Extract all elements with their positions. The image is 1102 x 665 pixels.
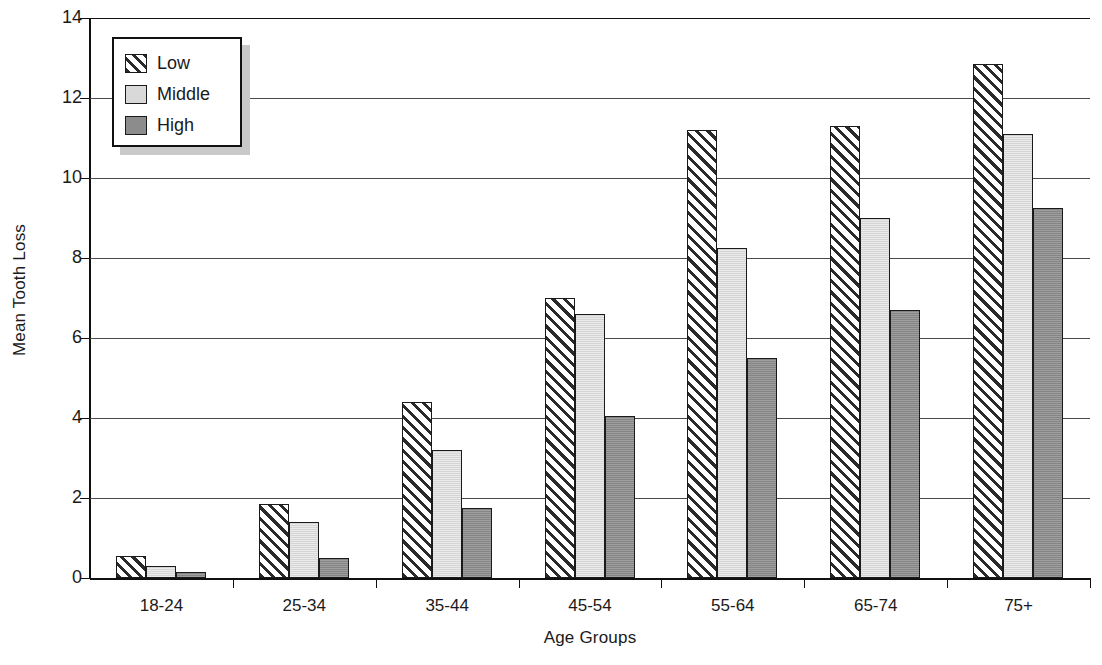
y-tick-label-4: 4 — [72, 407, 82, 428]
bar-low-35-44 — [402, 402, 432, 578]
bar-group-bars — [687, 18, 777, 578]
bar-high-75+ — [1033, 208, 1063, 578]
bar-group — [687, 18, 777, 578]
legend-swatch-middle-icon — [125, 85, 147, 104]
x-axis-group-separator — [376, 578, 377, 588]
bar-group-bars — [545, 18, 635, 578]
x-axis-group-separator — [661, 578, 662, 588]
chart-legend: LowMiddleHigh — [112, 37, 242, 147]
x-tick-label-55-64: 55-64 — [661, 596, 804, 616]
y-tick-label-10: 10 — [62, 167, 82, 188]
legend-label-middle: Middle — [157, 84, 210, 105]
x-tick-label-18-24: 18-24 — [90, 596, 233, 616]
legend-label-high: High — [157, 115, 194, 136]
y-axis-title-text: Mean Tooth Loss — [10, 224, 30, 356]
y-tick-label-6: 6 — [72, 327, 82, 348]
bar-group — [259, 18, 349, 578]
bar-middle-45-54 — [575, 314, 605, 578]
y-tick-label-14: 14 — [62, 7, 82, 28]
x-axis-title: Age Groups — [90, 628, 1090, 648]
bar-low-18-24 — [116, 556, 146, 578]
bar-low-75+ — [973, 64, 1003, 578]
x-axis-group-separator — [519, 578, 520, 588]
x-tick-label-75+: 75+ — [947, 596, 1090, 616]
y-tick-label-2: 2 — [72, 487, 82, 508]
x-axis-group-separator — [233, 578, 234, 588]
legend-swatch-low-icon — [125, 54, 147, 73]
bar-low-25-34 — [259, 504, 289, 578]
bar-middle-25-34 — [289, 522, 319, 578]
x-axis-group-separator — [804, 578, 805, 588]
bar-high-65-74 — [890, 310, 920, 578]
bar-high-45-54 — [605, 416, 635, 578]
y-tick-label-0: 0 — [72, 567, 82, 588]
bar-group — [830, 18, 920, 578]
bar-group-bars — [830, 18, 920, 578]
y-axis-line — [89, 18, 91, 578]
x-tick-label-35-44: 35-44 — [376, 596, 519, 616]
x-axis-group-separator — [1090, 578, 1091, 588]
bar-group — [402, 18, 492, 578]
bar-high-35-44 — [462, 508, 492, 578]
bar-middle-55-64 — [717, 248, 747, 578]
legend-item-high[interactable]: High — [125, 110, 240, 141]
x-tick-label-25-34: 25-34 — [233, 596, 376, 616]
y-tick-label-12: 12 — [62, 87, 82, 108]
bar-group — [545, 18, 635, 578]
bar-middle-18-24 — [146, 566, 176, 578]
gridline-0 — [90, 578, 1090, 580]
x-tick-label-45-54: 45-54 — [519, 596, 662, 616]
x-tick-label-65-74: 65-74 — [804, 596, 947, 616]
bar-group-bars — [402, 18, 492, 578]
y-axis-title: Mean Tooth Loss — [0, 0, 40, 580]
bar-high-18-24 — [176, 572, 206, 578]
bar-low-45-54 — [545, 298, 575, 578]
legend-swatch-high-icon — [125, 116, 147, 135]
bar-group-bars — [259, 18, 349, 578]
y-tick-label-8: 8 — [72, 247, 82, 268]
bar-middle-35-44 — [432, 450, 462, 578]
bar-low-65-74 — [830, 126, 860, 578]
legend-label-low: Low — [157, 53, 190, 74]
bar-high-25-34 — [319, 558, 349, 578]
x-axis-group-separator — [947, 578, 948, 588]
bar-middle-75+ — [1003, 134, 1033, 578]
bar-middle-65-74 — [860, 218, 890, 578]
bar-chart-figure: Mean Tooth Loss 02468101214 18-2425-3435… — [0, 0, 1102, 665]
legend-item-middle[interactable]: Middle — [125, 79, 240, 110]
bar-low-55-64 — [687, 130, 717, 578]
bar-group-bars — [973, 18, 1063, 578]
bar-high-55-64 — [747, 358, 777, 578]
legend-item-low[interactable]: Low — [125, 48, 240, 79]
bar-group — [973, 18, 1063, 578]
